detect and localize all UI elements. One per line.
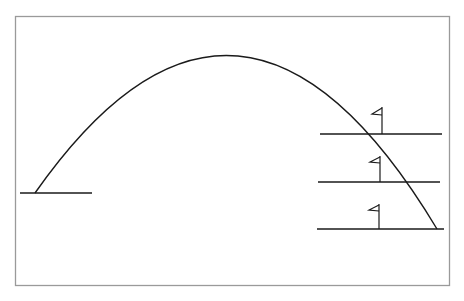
- flag-icon: [372, 107, 382, 134]
- flag-icon: [369, 204, 379, 229]
- flag-icon: [370, 156, 380, 182]
- trajectory-curve: [35, 55, 437, 229]
- platform-lower: [317, 204, 444, 229]
- platform-upper: [320, 107, 442, 134]
- platform-middle: [318, 156, 440, 182]
- trajectory-diagram: [0, 0, 464, 301]
- diagram-frame: [16, 17, 450, 286]
